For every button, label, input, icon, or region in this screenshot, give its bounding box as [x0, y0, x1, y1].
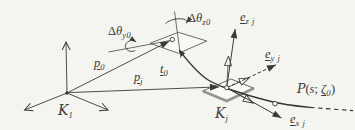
label-pj: pj	[134, 71, 143, 85]
beam-kinematics-figure: Δθy0 Δθz0 p0 pj t0 K1 Kj ez j ey j ex j …	[0, 0, 355, 130]
label-subscript: y j	[271, 53, 281, 63]
label-subscript: 0	[100, 62, 105, 72]
label-e-xj: ex j	[290, 113, 305, 127]
delta-symbol: Δ	[188, 11, 196, 25]
label-e-yj: ey j	[265, 48, 280, 62]
frame-symbol: K	[58, 102, 68, 118]
paren-close: )	[331, 82, 335, 96]
label-subscript: z j	[246, 16, 255, 26]
frame-kj-plate	[203, 79, 254, 101]
pj-vector	[69, 87, 220, 93]
p0-vector	[69, 41, 170, 92]
curve-point-marker	[273, 101, 278, 106]
label-delta-theta-z0: Δθz0	[188, 12, 211, 26]
label-frame-kj: Kj	[215, 106, 228, 122]
frame-k1	[25, 42, 109, 110]
k1-axis-up	[66, 42, 67, 93]
k1-origin-dot	[65, 91, 68, 94]
diagram-canvas	[0, 0, 355, 130]
label-subscript: z0	[202, 17, 211, 27]
label-p0: p0	[94, 57, 105, 71]
label-curve-function: P(s; ζ0)	[297, 83, 335, 97]
kj-origin-marker	[225, 86, 229, 90]
label-frame-k1: K1	[58, 103, 73, 119]
plate0-origin-marker	[170, 37, 174, 41]
frame-symbol: K	[215, 105, 225, 121]
label-subscript: 1	[68, 110, 73, 120]
platej-face	[203, 79, 254, 101]
label-delta-theta-y0: Δθy0	[108, 25, 131, 39]
label-subscript: j	[140, 76, 143, 86]
label-subscript: x j	[296, 118, 306, 128]
label-subscript: j	[225, 113, 228, 123]
rotation-arc-y0	[125, 41, 136, 52]
label-subscript: 0	[163, 68, 168, 78]
label-t0: t0	[160, 63, 168, 77]
delta-symbol: Δ	[108, 24, 116, 38]
curve-dashed	[310, 107, 353, 110]
label-e-zj: ez j	[240, 11, 255, 25]
e-yj-vector	[227, 65, 276, 88]
label-subscript: y0	[122, 30, 131, 40]
